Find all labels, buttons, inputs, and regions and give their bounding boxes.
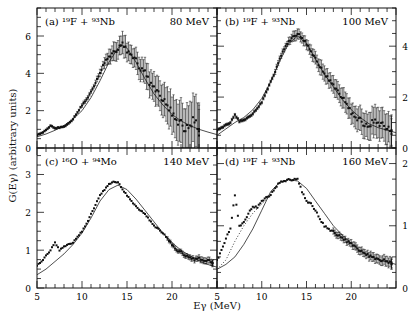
data-point — [338, 93, 340, 95]
data-point — [291, 37, 293, 39]
data-point — [326, 75, 328, 77]
data-point — [159, 95, 161, 97]
data-point — [120, 44, 122, 46]
data-point — [153, 85, 155, 87]
data-point — [274, 71, 276, 73]
data-point — [256, 107, 258, 109]
data-point — [314, 57, 316, 59]
panel-frame — [217, 148, 396, 288]
y-tick-label: 4 — [25, 69, 31, 79]
data-point — [222, 246, 224, 248]
y-axis-label: G(Eγ) (arbitrary units) — [7, 76, 18, 216]
data-point — [250, 208, 252, 210]
panel-d: 0125101520(d) ¹⁹F + ⁹³Nb160 MeV — [211, 148, 408, 302]
data-point — [131, 200, 133, 202]
data-point — [191, 125, 193, 127]
panel-title: (a) ¹⁹F + ⁹³Nb — [45, 16, 115, 27]
data-point — [235, 204, 237, 206]
data-point — [116, 51, 118, 53]
data-point — [271, 77, 273, 79]
data-point — [234, 194, 236, 196]
y-tick-label: 0 — [25, 144, 31, 154]
data-point — [256, 207, 258, 209]
x-axis-label: Eγ (MeV) — [177, 300, 257, 311]
data-point — [78, 234, 80, 236]
y-tick-label: 2 — [402, 93, 408, 103]
panel-b: 024(b) ¹⁹F + ⁹³Nb100 MeV — [216, 8, 408, 154]
data-point — [162, 100, 164, 102]
data-point — [158, 90, 160, 92]
data-point — [147, 217, 149, 219]
data-point — [386, 260, 388, 262]
data-point — [140, 70, 142, 72]
data-point — [167, 104, 169, 106]
panel-energy: 80 MeV — [170, 16, 210, 27]
data-point — [364, 252, 366, 254]
data-point — [186, 124, 188, 126]
data-point — [144, 213, 146, 215]
data-point — [356, 248, 358, 250]
data-point — [356, 119, 358, 121]
data-point — [301, 191, 303, 193]
panel-energy: 140 MeV — [163, 156, 209, 167]
data-point — [95, 82, 97, 84]
data-point — [36, 265, 38, 267]
data-point — [325, 225, 327, 227]
data-point — [364, 125, 366, 127]
data-point — [107, 185, 109, 187]
data-point — [198, 257, 200, 259]
panel-energy: 160 MeV — [342, 156, 388, 167]
data-point — [246, 216, 248, 218]
data-point — [135, 205, 137, 207]
data-point — [96, 200, 98, 202]
data-point — [229, 122, 231, 124]
data-point — [335, 88, 337, 90]
data-point — [168, 109, 170, 111]
data-point — [89, 216, 91, 218]
y-tick-label: 3 — [25, 170, 31, 180]
data-point — [329, 79, 331, 81]
data-point — [332, 230, 334, 232]
data-point — [101, 69, 103, 71]
data-point — [316, 212, 318, 214]
panel-title: (b) ¹⁹F + ⁹³Nb — [225, 16, 295, 27]
data-point — [182, 125, 184, 127]
data-point — [195, 119, 197, 121]
data-point — [298, 183, 300, 185]
y-tick-label: 1 — [402, 221, 408, 231]
data-point — [346, 103, 348, 105]
data-point — [77, 111, 79, 113]
data-point — [128, 50, 130, 52]
data-point — [90, 213, 92, 215]
data-point — [48, 251, 50, 253]
data-point — [54, 241, 56, 243]
data-point — [391, 129, 393, 131]
data-point — [320, 67, 322, 69]
data-point — [370, 125, 372, 127]
data-point — [194, 121, 196, 123]
data-point — [182, 252, 184, 254]
data-point — [107, 58, 109, 60]
data-point — [311, 205, 313, 207]
data-point — [135, 57, 137, 59]
data-point — [180, 119, 182, 121]
data-point — [81, 231, 83, 233]
data-point — [137, 207, 139, 209]
data-point — [173, 112, 175, 114]
data-point — [237, 118, 239, 120]
data-point — [262, 200, 264, 202]
data-point — [303, 193, 305, 195]
y-tick-label: 2 — [402, 159, 408, 169]
data-point — [243, 221, 245, 223]
data-point — [104, 189, 106, 191]
panel-c: 01235101520(c) ¹⁶O + ⁹⁴Mo140 MeV — [25, 148, 217, 302]
data-point — [240, 224, 242, 226]
data-point — [220, 249, 222, 251]
data-point — [141, 67, 143, 69]
data-point — [212, 262, 214, 264]
fit-curve — [37, 185, 217, 275]
x-tick-label: 5 — [34, 292, 40, 302]
data-point — [308, 48, 310, 50]
data-point — [92, 210, 94, 212]
data-point — [383, 258, 385, 260]
